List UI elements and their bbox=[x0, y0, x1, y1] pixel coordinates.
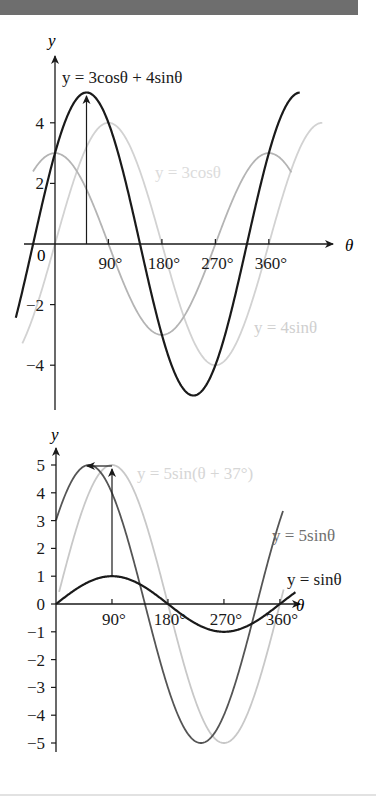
y-tick-label: 4 bbox=[37, 484, 46, 503]
bottom-x-axis-label: θ bbox=[296, 596, 304, 615]
y-tick-label: 1 bbox=[37, 567, 46, 586]
y-tick-label: 3 bbox=[37, 512, 46, 531]
y-tick-label: 2 bbox=[36, 174, 45, 193]
charts-canvas: −4−224 90°180°270°360° y θ 0 y = 3cosθ +… bbox=[0, 0, 376, 797]
x-tick-label: 270° bbox=[210, 610, 242, 629]
x-tick-label: 180° bbox=[154, 610, 186, 629]
y-tick-label: −5 bbox=[27, 734, 45, 753]
chart-top: −4−224 90°180°270°360° y θ 0 y = 3cosθ +… bbox=[16, 31, 354, 410]
top-origin-label: 0 bbox=[37, 246, 46, 265]
y-tick-label: 2 bbox=[37, 539, 46, 558]
x-tick-label: 360° bbox=[255, 254, 287, 273]
y-tick-label: −2 bbox=[26, 296, 44, 315]
y-tick-label: −2 bbox=[27, 651, 45, 670]
legend-4sin: y = 4sinθ bbox=[254, 318, 317, 337]
legend-3cos: y = 3cosθ bbox=[155, 163, 221, 182]
y-tick-label: −3 bbox=[27, 678, 45, 697]
x-tick-label: 270° bbox=[201, 254, 233, 273]
bottom-y-axis-label: y bbox=[49, 425, 59, 444]
y-tick-label: −4 bbox=[27, 706, 46, 725]
legend-5sin-shifted: y = 5sin(θ + 37°) bbox=[137, 464, 253, 483]
legend-combined: y = 3cosθ + 4sinθ bbox=[62, 68, 182, 87]
footer-line bbox=[0, 794, 376, 796]
y-tick-label: −1 bbox=[27, 623, 45, 642]
x-tick-label: 90° bbox=[99, 254, 123, 273]
x-tick-label: 90° bbox=[102, 610, 126, 629]
chart-bottom: 543210−1−2−3−4−5 90°180°270°360° y θ y =… bbox=[27, 425, 342, 753]
legend-5sin: y = 5sinθ bbox=[272, 526, 335, 545]
x-tick-label: 360° bbox=[266, 610, 298, 629]
y-tick-label: 5 bbox=[37, 456, 46, 475]
bottom-y-ticks: 543210−1−2−3−4−5 bbox=[27, 456, 56, 753]
y-tick-label: 0 bbox=[37, 595, 46, 614]
top-x-axis-label: θ bbox=[345, 236, 353, 255]
y-tick-label: −4 bbox=[26, 356, 45, 375]
legend-sin: y = sinθ bbox=[287, 570, 342, 589]
top-y-axis-label: y bbox=[46, 31, 56, 50]
y-tick-label: 4 bbox=[36, 114, 45, 133]
x-tick-label: 180° bbox=[148, 254, 180, 273]
